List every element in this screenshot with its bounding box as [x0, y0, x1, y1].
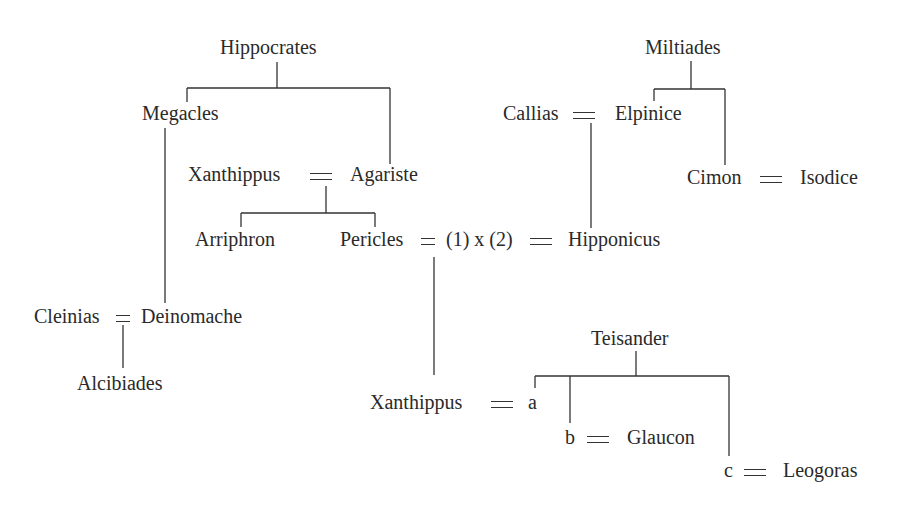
marriage-symbol [744, 469, 766, 476]
person-miltiades: Miltiades [645, 36, 721, 58]
marriage-symbol [491, 401, 513, 408]
marriage-symbol [573, 112, 595, 119]
person-deinomache: Deinomache [141, 305, 242, 327]
marriage-symbol [116, 315, 130, 322]
person-megacles: Megacles [142, 102, 219, 124]
person-cimon: Cimon [687, 166, 741, 188]
marriage-symbol [310, 173, 332, 180]
person-xanthippus-younger: Xanthippus [370, 391, 462, 413]
person-teisander: Teisander [591, 327, 668, 349]
person-glaucon: Glaucon [627, 426, 695, 448]
person-alcibiades: Alcibiades [77, 372, 163, 394]
marriage-symbol [760, 176, 782, 183]
person-leogoras: Leogoras [783, 459, 857, 481]
marriage-symbol [421, 238, 435, 245]
person-arriphron: Arriphron [195, 228, 275, 250]
person-elpinice: Elpinice [615, 102, 682, 124]
person-xanthippus-elder: Xanthippus [188, 163, 280, 185]
marriage-symbol [530, 238, 552, 245]
person-a: a [528, 391, 537, 413]
person-pericles: Pericles [340, 228, 403, 250]
person-c: c [724, 459, 733, 481]
person-hippocrates: Hippocrates [220, 36, 317, 58]
person-agariste: Agariste [350, 163, 418, 185]
unnamed-wife-marker: (1) x (2) [446, 228, 513, 250]
person-hipponicus: Hipponicus [568, 228, 660, 250]
person-cleinias: Cleinias [34, 305, 100, 327]
person-b: b [565, 426, 575, 448]
person-isodice: Isodice [800, 166, 858, 188]
person-callias: Callias [503, 102, 559, 124]
tree-connector-lines [0, 0, 900, 511]
marriage-symbol [587, 436, 609, 443]
